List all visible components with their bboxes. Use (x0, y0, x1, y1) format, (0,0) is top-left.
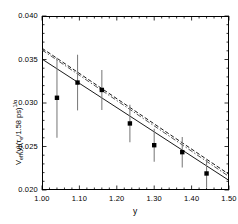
data-point-marker (100, 88, 104, 92)
fit-line-dashed (42, 48, 229, 174)
data-point-marker (75, 80, 79, 84)
fit-line-dashdot (42, 50, 229, 177)
figure: 0.0400.0350.0300.0250.020 1.001.101.201.… (0, 0, 238, 224)
y-axis-title: Veff(y)(τe/1.58 ps)1/α (12, 100, 24, 165)
y-tick-label: 0.035 (5, 55, 38, 64)
x-tick-label: 1.00 (27, 194, 57, 203)
x-tick-label: 1.30 (139, 194, 169, 203)
chart-canvas (42, 16, 229, 190)
data-point-marker (128, 121, 132, 125)
x-tick-label: 1.10 (64, 194, 94, 203)
x-tick-label: 1.40 (177, 194, 207, 203)
y-tick-label: 0.040 (5, 11, 38, 20)
x-axis-title: y (133, 206, 137, 216)
data-point-marker (55, 96, 59, 100)
fit-line-solid (42, 59, 229, 180)
y-tick-label: 0.020 (5, 185, 38, 194)
x-tick-label: 1.50 (214, 194, 238, 203)
data-point-marker (204, 171, 208, 175)
data-point-marker (152, 143, 156, 147)
plot-area (42, 16, 229, 190)
data-point-marker (180, 150, 184, 154)
x-tick-label: 1.20 (102, 194, 132, 203)
